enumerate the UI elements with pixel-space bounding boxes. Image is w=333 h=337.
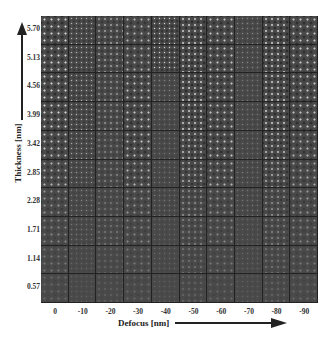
x-tick-label: -70 — [235, 307, 263, 316]
simulation-tile — [207, 160, 235, 189]
simulation-tile — [207, 246, 235, 275]
simulation-tile — [124, 246, 152, 275]
simulation-tile — [124, 160, 152, 189]
simulation-tile — [235, 131, 263, 160]
x-tick-label: -50 — [180, 307, 208, 316]
y-tick-label: 2.28 — [0, 197, 40, 205]
simulation-tile — [235, 73, 263, 102]
simulation-tile — [96, 274, 124, 303]
simulation-tile — [263, 160, 291, 189]
simulation-tile — [290, 188, 318, 217]
simulation-tile — [124, 217, 152, 246]
simulation-tile — [235, 45, 263, 74]
simulation-tile — [96, 73, 124, 102]
simulation-tile — [96, 102, 124, 131]
simulation-tile — [263, 188, 291, 217]
simulation-tile — [96, 217, 124, 246]
simulation-tile — [180, 102, 208, 131]
simulation-tile — [152, 246, 180, 275]
simulation-tile — [263, 217, 291, 246]
simulation-tile — [69, 217, 97, 246]
simulation-tile — [263, 73, 291, 102]
y-tick-label: 5.13 — [0, 54, 40, 62]
simulation-tile — [152, 188, 180, 217]
simulation-tile — [235, 188, 263, 217]
simulation-tile — [263, 131, 291, 160]
simulation-tile — [263, 45, 291, 74]
simulation-tile — [263, 102, 291, 131]
simulation-tile — [207, 131, 235, 160]
simulation-tile — [180, 45, 208, 74]
simulation-tile — [180, 16, 208, 45]
simulation-tile — [41, 246, 69, 275]
x-axis-title: Defocus [nm] — [118, 318, 169, 328]
y-axis-title: Thickness [nm] — [13, 113, 23, 193]
simulation-tile — [69, 246, 97, 275]
x-tick-label: -60 — [207, 307, 235, 316]
simulation-tile — [180, 160, 208, 189]
simulation-tile — [152, 131, 180, 160]
x-tick-label: -10 — [69, 307, 97, 316]
simulation-tile — [124, 131, 152, 160]
simulation-tile — [180, 131, 208, 160]
simulation-tile — [69, 16, 97, 45]
simulation-tile — [96, 45, 124, 74]
simulation-tile — [41, 274, 69, 303]
y-tick-label: 1.14 — [0, 255, 40, 263]
simulation-tile — [69, 274, 97, 303]
simulation-tile — [290, 274, 318, 303]
simulation-tile — [69, 73, 97, 102]
simulation-tile — [124, 274, 152, 303]
simulation-tile — [96, 188, 124, 217]
simulation-tile — [290, 246, 318, 275]
simulation-tile — [290, 131, 318, 160]
simulation-tile — [96, 16, 124, 45]
simulation-tile — [290, 160, 318, 189]
y-tick-label: 0.57 — [0, 283, 40, 291]
simulation-tile — [41, 45, 69, 74]
x-tick-label: -90 — [290, 307, 318, 316]
simulation-tile — [235, 16, 263, 45]
simulation-tile — [290, 102, 318, 131]
y-tick-label: 1.71 — [0, 226, 40, 234]
simulation-tile — [41, 73, 69, 102]
simulation-tile — [207, 102, 235, 131]
simulation-tile — [263, 246, 291, 275]
simulation-tile — [235, 274, 263, 303]
simulation-tile — [152, 102, 180, 131]
y-tick-label: 3.99 — [0, 111, 40, 119]
simulation-tile — [41, 16, 69, 45]
simulation-tile — [124, 73, 152, 102]
simulation-tile — [180, 246, 208, 275]
simulation-tile — [124, 16, 152, 45]
x-tick-label: -40 — [152, 307, 180, 316]
simulation-tile — [124, 188, 152, 217]
simulation-tile — [69, 102, 97, 131]
simulation-tile — [207, 274, 235, 303]
simulation-tile — [263, 16, 291, 45]
simulation-tile — [69, 45, 97, 74]
simulation-tile — [96, 246, 124, 275]
simulation-image-grid — [41, 16, 318, 303]
simulation-tile — [207, 16, 235, 45]
simulation-tile — [235, 160, 263, 189]
simulation-tile — [290, 45, 318, 74]
simulation-tile — [96, 131, 124, 160]
simulation-tile — [41, 131, 69, 160]
y-tick-label: 5.70 — [0, 25, 40, 33]
simulation-tile — [207, 73, 235, 102]
simulation-tile — [235, 246, 263, 275]
simulation-tile — [41, 217, 69, 246]
y-tick-label: 3.42 — [0, 140, 40, 148]
simulation-tile — [124, 45, 152, 74]
x-tick-label: -80 — [263, 307, 291, 316]
simulation-tile — [180, 73, 208, 102]
simulation-tile — [235, 102, 263, 131]
simulation-tile — [290, 73, 318, 102]
simulation-tile — [96, 160, 124, 189]
simulation-tile — [152, 274, 180, 303]
simulation-tile — [290, 217, 318, 246]
x-tick-label: 0 — [41, 307, 69, 316]
simulation-tile — [180, 188, 208, 217]
simulation-tile — [124, 102, 152, 131]
